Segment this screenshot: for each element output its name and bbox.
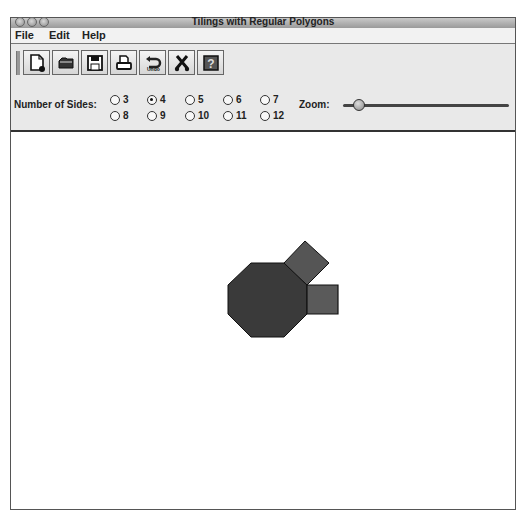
tiling-drawing [1,1,532,517]
square-tile[interactable] [307,285,338,314]
app-window: Tilings with Regular Polygons File Edit … [10,17,516,510]
drawing-canvas[interactable] [11,132,515,509]
